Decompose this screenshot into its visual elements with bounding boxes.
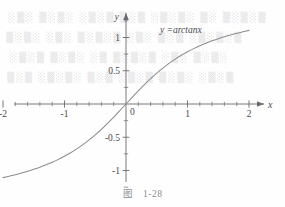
figure-caption-label: 图 [123, 189, 134, 199]
x-axis-tick-label: -1 [61, 109, 69, 119]
x-axis-tick-label: 0 [130, 107, 135, 117]
x-axis-label: x [267, 99, 273, 110]
x-axis-tick-label: -2 [0, 109, 7, 119]
axes-group [14, 13, 264, 182]
figure-caption: 图1-28 [0, 186, 285, 200]
y-axis-arrow-icon [123, 13, 129, 20]
y-axis-tick-label: 0.5 [108, 66, 120, 76]
x-axis-arrow-icon [257, 101, 264, 107]
y-axis-label: y [114, 11, 120, 22]
y-axis-tick-label: 1 [115, 33, 120, 43]
figure-root: ░▒░ ▒░▒░ ░▒░▒ ▒░▒ ░▒░▒░ ▒░ ▒░▒░▒ ▒░▒░ ░▒… [0, 0, 285, 207]
arctan-plot: -2-1012 -1-0.50.51 y x y =arctanx [0, 0, 285, 207]
x-axis-tick-label: 1 [185, 109, 190, 119]
figure-caption-number: 1-28 [143, 189, 162, 199]
curve-equation-label: y =arctanx [159, 25, 202, 35]
y-axis-tick-label: -1 [112, 166, 120, 176]
y-axis-tick-label: -0.5 [105, 133, 120, 143]
x-axis-tick-label: 2 [247, 109, 252, 119]
